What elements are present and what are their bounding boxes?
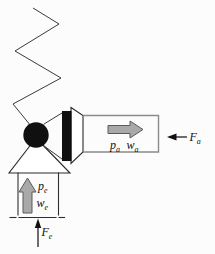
output-force-arrow-icon — [167, 134, 187, 141]
diagram-canvas: pe we Fe pa wa — [0, 0, 215, 254]
output-flow-arrow-icon — [108, 121, 143, 138]
input-flow-arrow-icon — [19, 178, 36, 213]
baffle-plate — [62, 111, 72, 161]
input-flow-label: we — [37, 196, 49, 212]
output-force-label: Fa — [189, 130, 201, 146]
ball-flapper — [23, 122, 48, 147]
output-flow-label: wa — [127, 138, 139, 154]
input-force-arrow-icon — [35, 219, 41, 248]
flapper-link-upper — [44, 113, 62, 124]
input-force-label: Fe — [41, 225, 53, 241]
flapper-nozzle-diagram: pe we Fe pa wa — [0, 0, 215, 254]
input-pressure-label: pe — [37, 179, 48, 195]
output-pressure-label: pa — [109, 138, 120, 154]
spring — [13, 8, 61, 126]
diffuser — [71, 108, 83, 164]
